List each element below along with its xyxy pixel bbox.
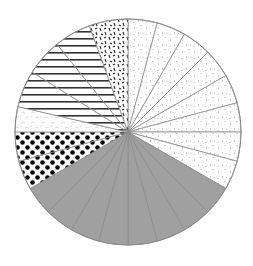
- pie-chart: [0, 0, 253, 266]
- pie-slices: [15, 19, 241, 245]
- pie-chart-svg: [0, 0, 253, 266]
